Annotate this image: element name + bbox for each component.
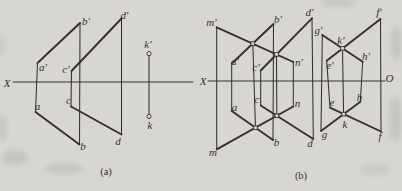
figb-vert-fp-f bbox=[381, 19, 382, 132]
figa-line-ap-bp bbox=[38, 23, 81, 63]
figb-label-mp: m′ bbox=[206, 16, 217, 28]
figa-label-kp: k′ bbox=[144, 38, 152, 50]
figb-point-k bbox=[342, 112, 346, 116]
figb-label-d: d bbox=[307, 137, 313, 149]
figa-label-ap: a′ bbox=[39, 61, 48, 73]
figb-label-fp: f′ bbox=[376, 6, 382, 18]
figa-vert-bp-b bbox=[80, 23, 81, 145]
figa-vert-cp-c bbox=[71, 71, 72, 107]
figb-line-a-b bbox=[232, 111, 273, 140]
figb-label-e: e bbox=[330, 96, 335, 108]
figa-line-cp-dp bbox=[72, 19, 122, 72]
figb-label-gp: g′ bbox=[315, 24, 324, 36]
geometry-figure: Xa′ab′bc′cd′dk′kXOm′mn′na′ab′bc′cd′de′ef… bbox=[0, 0, 402, 191]
caption-fig-b: (b) bbox=[295, 170, 308, 182]
figb-label-axis-x: X bbox=[199, 75, 208, 87]
figb-point-cross-1p bbox=[251, 42, 255, 46]
figa-label-k: k bbox=[148, 119, 154, 131]
figb-vert-bp-b bbox=[273, 24, 274, 140]
figb-label-b: b bbox=[274, 136, 280, 148]
figb-line-ep-fp bbox=[327, 19, 381, 61]
figb-vert-gp-g bbox=[321, 35, 322, 131]
figa-point-kp bbox=[147, 52, 151, 56]
figa-label-d: d bbox=[115, 135, 121, 147]
figb-label-h: h bbox=[357, 91, 363, 103]
figb-vert-dp-d bbox=[312, 18, 313, 139]
figb-label-cp: c′ bbox=[252, 61, 260, 73]
scanned-page: Xa′ab′bc′cd′dk′kXOm′mn′na′ab′bc′cd′de′ef… bbox=[0, 0, 402, 191]
figb-label-n: n bbox=[295, 97, 301, 109]
figb-label-g: g bbox=[322, 128, 328, 140]
figa-label-a: a bbox=[35, 100, 41, 112]
figa-label-bp: b′ bbox=[82, 15, 91, 27]
figb-point-cross-2p bbox=[275, 53, 279, 57]
figa-label-c: c bbox=[66, 94, 71, 106]
figb-label-dp: d′ bbox=[306, 6, 315, 18]
figb-point-kp bbox=[341, 47, 345, 51]
figb-label-a: a bbox=[232, 101, 238, 113]
figb-label-f: f bbox=[378, 130, 383, 142]
figb-label-k: k bbox=[343, 118, 349, 130]
figb-vert-cross-1 bbox=[253, 44, 256, 128]
figb-point-cross-2 bbox=[275, 114, 279, 118]
figa-label-dp: d′ bbox=[121, 9, 130, 21]
figa-line-c-d bbox=[71, 107, 122, 135]
figb-point-cross-1 bbox=[254, 126, 258, 130]
figa-label-axis-x: X bbox=[3, 77, 12, 89]
figb-label-kp: k′ bbox=[337, 34, 345, 46]
figa-label-cp: c′ bbox=[62, 63, 70, 75]
figb-label-bp: b′ bbox=[274, 13, 283, 25]
figb-label-m: m bbox=[209, 146, 217, 158]
figb-label-ap: a′ bbox=[231, 55, 240, 67]
figb-line-cp-dp bbox=[261, 18, 312, 70]
figa-label-b: b bbox=[80, 140, 86, 152]
figb-label-c: c bbox=[255, 93, 260, 105]
caption-fig-a: (a) bbox=[100, 166, 112, 178]
figb-label-axis-o: O bbox=[386, 72, 394, 84]
figb-label-hp: h′ bbox=[362, 50, 371, 62]
figb-vert-kp-k bbox=[343, 48, 344, 114]
figb-label-ep: e′ bbox=[326, 59, 334, 71]
figb-label-np: n′ bbox=[295, 56, 304, 68]
figa-line-a-b bbox=[36, 112, 80, 145]
